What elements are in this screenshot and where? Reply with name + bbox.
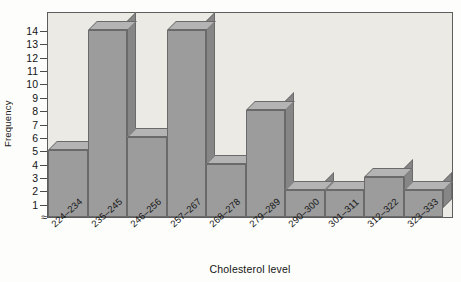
y-axis-tick-mark bbox=[40, 71, 47, 72]
y-axis-title: Frequency bbox=[2, 64, 16, 184]
y-axis-tick-label: 4 bbox=[16, 159, 38, 171]
y-axis-tick-mark bbox=[40, 205, 47, 206]
y-axis-tick-mark bbox=[40, 31, 47, 32]
y-axis-tick-label: 2 bbox=[16, 185, 38, 197]
y-axis-tick-mark bbox=[40, 165, 47, 166]
y-axis-tick-mark bbox=[40, 84, 47, 85]
bars-container bbox=[48, 13, 452, 217]
y-axis-tick-label: 9 bbox=[16, 92, 38, 104]
y-axis-tick-label: 13 bbox=[16, 38, 38, 50]
y-axis-tick-label: 10 bbox=[16, 78, 38, 90]
y-axis-tick-mark bbox=[40, 191, 47, 192]
bar-front-face bbox=[88, 30, 128, 217]
x-axis-tick-labels: 224–234235–245246–256257–267268–278279–2… bbox=[47, 219, 453, 263]
y-axis-tick-label: 5 bbox=[16, 145, 38, 157]
bar-side-face bbox=[443, 172, 452, 208]
y-axis-tick-label: 6 bbox=[16, 132, 38, 144]
y-axis-tick-mark bbox=[40, 178, 47, 179]
histogram-chart: Frequency 1234567891011121314 ≈ 224–2342… bbox=[0, 0, 461, 282]
bar bbox=[88, 21, 128, 217]
y-axis-tick-labels: 1234567891011121314 bbox=[16, 14, 38, 218]
bar-top-face bbox=[88, 21, 137, 30]
bar-front-face bbox=[167, 30, 207, 217]
y-axis-tick-mark bbox=[40, 151, 47, 152]
y-axis-tick-mark bbox=[40, 98, 47, 99]
bar-top-face bbox=[167, 21, 216, 30]
y-axis-tick-label: 3 bbox=[16, 172, 38, 184]
y-axis-tick-mark bbox=[40, 138, 47, 139]
y-axis-tick-label: 12 bbox=[16, 52, 38, 64]
y-axis-tick-label: 1 bbox=[16, 199, 38, 211]
x-axis-title: Cholesterol level bbox=[47, 263, 453, 275]
y-axis-tick-label: 14 bbox=[16, 25, 38, 37]
y-axis-tick-label: 11 bbox=[16, 65, 38, 77]
bar bbox=[167, 21, 207, 217]
y-axis-tick-mark bbox=[40, 125, 47, 126]
y-axis-tick-mark bbox=[40, 44, 47, 45]
y-axis-tick-label: 7 bbox=[16, 119, 38, 131]
plot-area bbox=[47, 12, 453, 218]
y-axis-tick-label: 8 bbox=[16, 105, 38, 117]
y-axis-tick-mark bbox=[40, 111, 47, 112]
y-axis-tick-mark bbox=[40, 58, 47, 59]
